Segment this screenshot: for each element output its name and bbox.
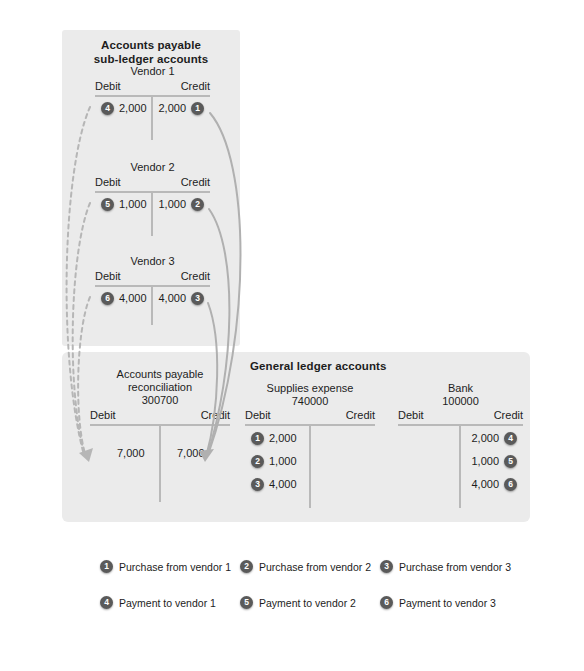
badge-6: 6: [380, 596, 393, 609]
bank-stem: [459, 424, 461, 508]
diagram-canvas: Accounts payable sub-ledger accounts Ven…: [0, 0, 584, 671]
vendor-3-name: Vendor 3: [95, 255, 210, 268]
supplies-expense-debit-header: Debit: [245, 409, 271, 421]
bank-credit-header: Credit: [494, 409, 523, 421]
legend-label-4: Payment to vendor 1: [119, 597, 216, 609]
subledger-title-line-2: sub-ledger accounts: [62, 52, 240, 66]
vendor-2-debit-header: Debit: [95, 176, 121, 188]
bank-debit-header: Debit: [398, 409, 424, 421]
badge-4: 4: [100, 596, 113, 609]
vendor-1-debit-header: Debit: [95, 80, 121, 92]
badge-3: 3: [191, 292, 204, 305]
supplies-expense-amount-1: 2,000: [264, 430, 302, 447]
supplies-expense-row-2: 2 1,000: [251, 453, 302, 470]
vendor-2-debit-amount: 1,000: [114, 196, 152, 213]
supplies-expense-name: Supplies expense 740000: [245, 382, 375, 408]
badge-5: 5: [240, 596, 253, 609]
ap-reconciliation-stem: [159, 424, 161, 502]
t-account-supplies-expense: Supplies expense 740000 Debit Credit 1 2…: [245, 382, 375, 508]
ap-reconciliation-debit-row: 7,000: [112, 445, 150, 462]
vendor-1-debit-row: 4 2,000: [101, 100, 152, 117]
ap-reconciliation-credit-header: Credit: [201, 409, 230, 421]
subledger-title-line-1: Accounts payable: [62, 38, 240, 52]
vendor-3-credit-header: Credit: [181, 270, 210, 282]
badge-6: 6: [504, 478, 517, 491]
vendor-2-name: Vendor 2: [95, 161, 210, 174]
legend-label-6: Payment to vendor 3: [399, 597, 496, 609]
legend-label-3: Purchase from vendor 3: [399, 561, 511, 573]
legend-label-2: Purchase from vendor 2: [259, 561, 371, 573]
general-ledger-panel-title: General ledger accounts: [250, 360, 387, 372]
vendor-3-debit-amount: 4,000: [114, 290, 152, 307]
badge-1: 1: [100, 560, 113, 573]
badge-1: 1: [191, 102, 204, 115]
supplies-expense-row-3: 3 4,000: [251, 476, 302, 493]
vendor-1-credit-header: Credit: [181, 80, 210, 92]
vendor-2-credit-row: 1,000 2: [153, 196, 204, 213]
vendor-2-credit-amount: 1,000: [153, 196, 191, 213]
t-account-vendor-3: Vendor 3 Debit Credit 6 4,000 4,000 3: [95, 258, 210, 330]
vendor-1-credit-row: 2,000 1: [153, 100, 204, 117]
legend-item-3: 3 Purchase from vendor 3: [380, 560, 511, 573]
bank-row-3: 4,000 6: [466, 476, 517, 493]
vendor-2-debit-row: 5 1,000: [101, 196, 152, 213]
bank-name: Bank 100000: [398, 382, 523, 408]
ap-reconciliation-name-line-2: reconciliation: [90, 381, 230, 394]
badge-2: 2: [240, 560, 253, 573]
supplies-expense-credit-header: Credit: [346, 409, 375, 421]
legend-item-6: 6 Payment to vendor 3: [380, 596, 496, 609]
supplies-expense-amount-2: 1,000: [264, 453, 302, 470]
legend-item-1: 1 Purchase from vendor 1: [100, 560, 231, 573]
badge-2: 2: [191, 198, 204, 211]
ap-reconciliation-debit-header: Debit: [90, 409, 116, 421]
t-account-vendor-1: Vendor 1 Debit Credit 4 2,000 2,000 1: [95, 68, 210, 140]
ap-reconciliation-credit-amount: 7,000: [172, 445, 210, 462]
supplies-expense-row-1: 1 2,000: [251, 430, 302, 447]
ap-reconciliation-debit-amount: 7,000: [112, 445, 150, 462]
badge-4: 4: [504, 432, 517, 445]
vendor-3-debit-row: 6 4,000: [101, 290, 152, 307]
vendor-1-name: Vendor 1: [95, 65, 210, 78]
ap-reconciliation-name: Accounts payable reconciliation 300700: [90, 368, 230, 407]
bank-row-2: 1,000 5: [466, 453, 517, 470]
legend-item-2: 2 Purchase from vendor 2: [240, 560, 371, 573]
bank-amount-2: 1,000: [466, 453, 504, 470]
ap-reconciliation-credit-row: 7,000: [172, 445, 210, 462]
badge-1: 1: [251, 432, 264, 445]
vendor-3-debit-header: Debit: [95, 270, 121, 282]
badge-3: 3: [251, 478, 264, 491]
bank-number: 100000: [398, 395, 523, 408]
badge-6: 6: [101, 292, 114, 305]
t-account-vendor-2: Vendor 2 Debit Credit 5 1,000 1,000 2: [95, 164, 210, 236]
bank-title: Bank: [398, 382, 523, 395]
supplies-expense-amount-3: 4,000: [264, 476, 302, 493]
ap-reconciliation-number: 300700: [90, 394, 230, 407]
subledger-panel-title: Accounts payable sub-ledger accounts: [62, 38, 240, 66]
bank-amount-3: 4,000: [466, 476, 504, 493]
ap-reconciliation-name-line-1: Accounts payable: [90, 368, 230, 381]
vendor-1-debit-amount: 2,000: [114, 100, 152, 117]
badge-2: 2: [251, 455, 264, 468]
badge-5: 5: [504, 455, 517, 468]
supplies-expense-title: Supplies expense: [245, 382, 375, 395]
t-account-ap-reconciliation: Accounts payable reconciliation 300700 D…: [90, 368, 230, 508]
supplies-expense-stem: [309, 424, 311, 508]
t-account-bank: Bank 100000 Debit Credit 2,000 4 1,000 5…: [398, 382, 523, 508]
legend-label-1: Purchase from vendor 1: [119, 561, 231, 573]
legend-item-5: 5 Payment to vendor 2: [240, 596, 356, 609]
vendor-1-credit-amount: 2,000: [153, 100, 191, 117]
legend-item-4: 4 Payment to vendor 1: [100, 596, 216, 609]
badge-3: 3: [380, 560, 393, 573]
badge-4: 4: [101, 102, 114, 115]
bank-amount-1: 2,000: [466, 430, 504, 447]
legend-label-5: Payment to vendor 2: [259, 597, 356, 609]
supplies-expense-number: 740000: [245, 395, 375, 408]
vendor-3-credit-row: 4,000 3: [153, 290, 204, 307]
bank-row-1: 2,000 4: [466, 430, 517, 447]
vendor-3-credit-amount: 4,000: [153, 290, 191, 307]
badge-5: 5: [101, 198, 114, 211]
vendor-2-credit-header: Credit: [181, 176, 210, 188]
